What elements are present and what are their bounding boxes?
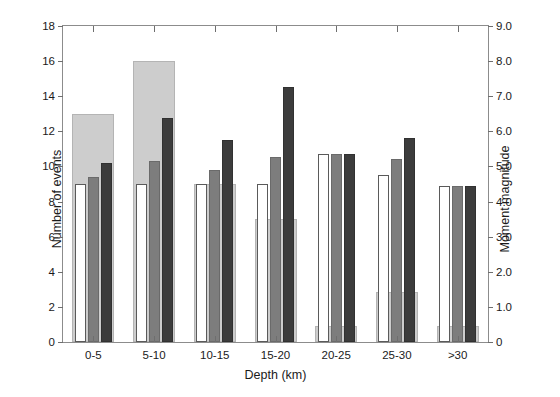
bar-group	[133, 26, 175, 342]
bar-group	[72, 26, 114, 342]
x-axis-tick	[215, 336, 216, 342]
magnitude-min-bar	[318, 154, 329, 342]
y-axis-right-tick-label: 1.0	[496, 301, 512, 313]
magnitude-mean-bar	[149, 161, 160, 342]
magnitude-mean-bar	[452, 186, 463, 342]
x-axis-tick-top	[215, 26, 216, 32]
magnitude-max-bar	[222, 140, 233, 342]
bar-group	[194, 26, 236, 342]
y-axis-left-tick	[58, 237, 63, 238]
x-axis-tick	[93, 336, 94, 342]
y-axis-right-tick-label: 0	[496, 336, 502, 348]
y-axis-left-tick-label: 2	[49, 301, 55, 313]
y-axis-right-tick-label: 6.0	[496, 125, 512, 137]
x-axis-tick-label: 10-15	[200, 349, 229, 361]
bar-group	[315, 26, 357, 342]
bar-group	[437, 26, 479, 342]
y-axis-left-tick	[58, 61, 63, 62]
y-axis-right-tick-label: 4.0	[496, 196, 512, 208]
y-axis-right-tick	[488, 26, 493, 27]
y-axis-left-tick	[58, 26, 63, 27]
y-axis-left-tick-label: 14	[42, 90, 55, 102]
magnitude-mean-bar	[391, 159, 402, 342]
y-axis-left-tick-label: 18	[42, 20, 55, 32]
x-axis-tick-top	[93, 26, 94, 32]
y-axis-right-tick	[488, 166, 493, 167]
y-axis-left-tick-label: 16	[42, 55, 55, 67]
x-axis-tick-label: 20-25	[321, 349, 350, 361]
y-axis-left-tick-label: 6	[49, 231, 55, 243]
x-axis-tick-label: 25-30	[382, 349, 411, 361]
y-axis-right-tick-label: 9.0	[496, 20, 512, 32]
x-axis-tick	[458, 336, 459, 342]
magnitude-mean-bar	[209, 170, 220, 342]
bar-group	[255, 26, 297, 342]
y-axis-right-tick	[488, 342, 493, 343]
magnitude-max-bar	[465, 186, 476, 342]
y-axis-right-tick	[488, 61, 493, 62]
x-axis-title: Depth (km)	[62, 368, 489, 382]
x-axis-tick-top	[458, 26, 459, 32]
magnitude-max-bar	[283, 87, 294, 342]
x-axis-tick-label: 0-5	[85, 349, 102, 361]
y-axis-right-tick	[488, 96, 493, 97]
y-axis-left-tick-label: 0	[49, 336, 55, 348]
y-axis-left-tick	[58, 166, 63, 167]
magnitude-min-bar	[257, 184, 268, 342]
x-axis-tick-label: 15-20	[261, 349, 290, 361]
y-axis-right-tick	[488, 272, 493, 273]
magnitude-mean-bar	[270, 157, 281, 342]
magnitude-max-bar	[101, 163, 112, 342]
y-axis-right-tick	[488, 131, 493, 132]
y-axis-left-tick-label: 4	[49, 266, 55, 278]
y-axis-right-tick	[488, 237, 493, 238]
y-axis-left-tick	[58, 307, 63, 308]
bar-group	[376, 26, 418, 342]
magnitude-mean-bar	[88, 177, 99, 342]
y-axis-right-tick	[488, 307, 493, 308]
y-axis-right-tick-label: 2.0	[496, 266, 512, 278]
y-axis-right-tick-label: 3.0	[496, 231, 512, 243]
magnitude-min-bar	[378, 175, 389, 342]
magnitude-min-bar	[75, 184, 86, 342]
plot-area: 0-55-1010-1515-2020-2525-30>300246810121…	[62, 25, 489, 343]
y-axis-left-tick-label: 10	[42, 160, 55, 172]
x-axis-tick-top	[336, 26, 337, 32]
x-axis-tick-top	[397, 26, 398, 32]
magnitude-max-bar	[404, 138, 415, 342]
x-axis-tick-label: 5-10	[143, 349, 166, 361]
y-axis-left-tick	[58, 272, 63, 273]
y-axis-right-tick-label: 8.0	[496, 55, 512, 67]
y-axis-left-tick	[58, 342, 63, 343]
y-axis-left-tick-label: 8	[49, 196, 55, 208]
y-axis-left-tick	[58, 202, 63, 203]
magnitude-min-bar	[439, 186, 450, 342]
magnitude-max-bar	[162, 118, 173, 342]
chart-figure: Number of events Moment magnitude Depth …	[0, 0, 560, 397]
magnitude-max-bar	[344, 154, 355, 342]
x-axis-tick	[336, 336, 337, 342]
x-axis-tick-top	[154, 26, 155, 32]
x-axis-tick-label: >30	[448, 349, 468, 361]
y-axis-left-tick	[58, 96, 63, 97]
magnitude-min-bar	[136, 184, 147, 342]
magnitude-min-bar	[196, 184, 207, 342]
y-axis-right-tick-label: 7.0	[496, 90, 512, 102]
x-axis-tick	[397, 336, 398, 342]
x-axis-tick	[154, 336, 155, 342]
y-axis-right-tick	[488, 202, 493, 203]
x-axis-tick	[276, 336, 277, 342]
magnitude-mean-bar	[331, 154, 342, 342]
y-axis-left-tick	[58, 131, 63, 132]
x-axis-tick-top	[276, 26, 277, 32]
y-axis-right-tick-label: 5.0	[496, 160, 512, 172]
y-axis-left-tick-label: 12	[42, 125, 55, 137]
